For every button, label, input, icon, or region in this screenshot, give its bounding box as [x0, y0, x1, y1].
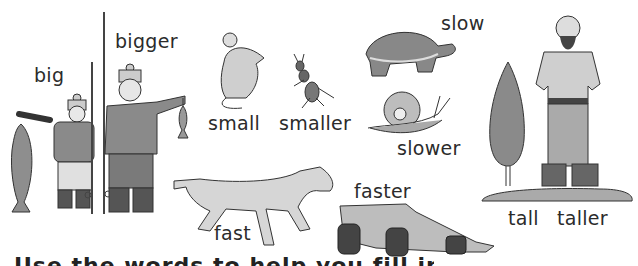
label-fast: fast	[214, 224, 251, 243]
horse-icon	[170, 165, 340, 247]
snail-icon	[368, 90, 456, 136]
fish-small-icon	[176, 98, 190, 140]
label-small: small	[208, 114, 260, 133]
label-taller: taller	[557, 209, 608, 228]
label-tall: tall	[508, 209, 539, 228]
label-big: big	[34, 66, 64, 85]
mouse-icon	[216, 32, 284, 112]
race-car-icon	[336, 200, 496, 258]
instruction-text-cut-off: Use the words to help you fill in the	[14, 255, 434, 266]
comparatives-illustration: big bigger small smaller slow slower	[0, 0, 638, 266]
label-faster: faster	[354, 182, 411, 201]
boy-fisherman-icon	[14, 90, 94, 215]
label-slow: slow	[441, 14, 485, 33]
ant-icon	[290, 54, 336, 110]
tall-man-icon	[530, 14, 606, 190]
label-slower: slower	[397, 139, 461, 158]
label-smaller: smaller	[279, 114, 351, 133]
tree-icon	[488, 60, 528, 190]
label-bigger: bigger	[115, 32, 178, 51]
